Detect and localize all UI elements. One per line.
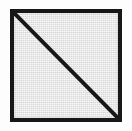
square-shape [10,9,122,122]
figure-canvas [0,0,132,131]
diagonal-line [14,13,118,118]
diagonal-line-layer [14,13,118,118]
